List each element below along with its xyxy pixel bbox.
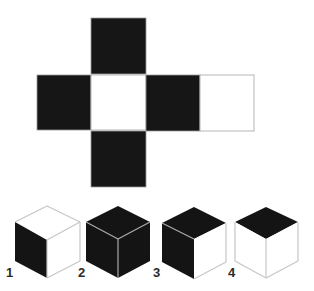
- net-face-center: [91, 75, 146, 130]
- option-label-2: 2: [78, 265, 85, 280]
- cube-net: [37, 18, 254, 187]
- option-label-4: 4: [228, 265, 236, 280]
- option-cube-1[interactable]: 1: [6, 206, 80, 280]
- puzzle-figure: 1 2 3 4: [0, 0, 314, 291]
- option-label-1: 1: [6, 265, 13, 280]
- net-face-right: [146, 75, 200, 131]
- option-cube-3[interactable]: 3: [153, 207, 226, 280]
- net-face-left: [37, 75, 91, 130]
- net-face-top: [91, 18, 146, 74]
- option-label-3: 3: [153, 265, 160, 280]
- option-cube-2[interactable]: 2: [78, 206, 150, 280]
- net-face-bottom: [91, 131, 146, 187]
- net-face-far-right: [200, 75, 254, 131]
- option-cube-4[interactable]: 4: [228, 207, 298, 280]
